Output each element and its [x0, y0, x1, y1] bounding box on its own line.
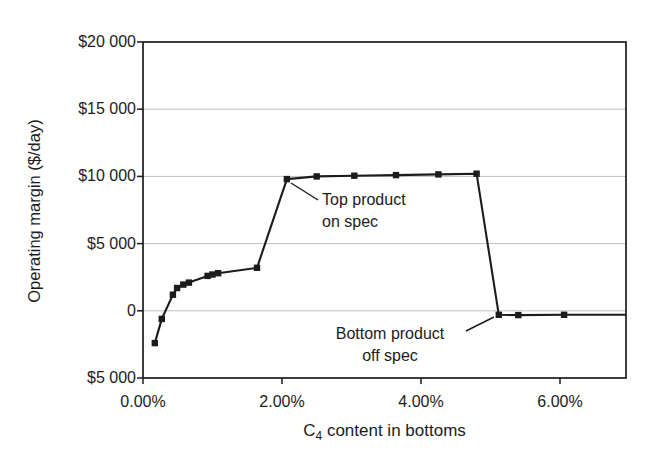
data-point-marker	[351, 173, 357, 179]
data-point-marker	[515, 312, 521, 318]
chart-figure: Operating margin ($/day) C4 content in b…	[0, 0, 654, 475]
top-product-on-spec-annotation: Top producton spec	[322, 189, 406, 232]
y-tick-label: 0	[44, 301, 136, 321]
data-point-marker	[496, 312, 502, 318]
y-axis-title: Operating margin ($/day)	[24, 86, 44, 336]
x-axis-title-pre: C	[303, 421, 315, 440]
data-point-marker	[314, 173, 320, 179]
top-product-on-spec-text-line: Top product	[322, 189, 406, 211]
data-point-marker	[186, 279, 192, 285]
data-point-marker	[254, 265, 260, 271]
top-product-on-spec-text-line: on spec	[322, 211, 406, 233]
x-axis-title: C4 content in bottoms	[143, 420, 626, 447]
data-point-marker	[561, 312, 567, 318]
data-point-marker	[159, 316, 165, 322]
data-point-marker	[393, 172, 399, 178]
y-tick-label: $15 000	[44, 99, 136, 119]
data-point-marker	[209, 271, 215, 277]
x-tick-label: 4.00%	[376, 392, 466, 412]
data-point-marker	[435, 171, 441, 177]
data-point-marker	[473, 171, 479, 177]
data-point-marker	[152, 340, 158, 346]
bottom-product-off-spec-text-line: Bottom product	[280, 323, 500, 345]
y-tick-label: $10 000	[44, 166, 136, 186]
top-product-on-spec-leader-line	[291, 183, 318, 200]
x-tick-label: 6.00%	[515, 392, 605, 412]
data-point-marker	[174, 285, 180, 291]
y-tick-label: $5 000	[44, 234, 136, 254]
data-point-marker	[180, 281, 186, 287]
x-tick-label: 2.00%	[237, 392, 327, 412]
y-tick-label: $20 000	[44, 32, 136, 52]
data-point-marker	[215, 270, 221, 276]
y-tick-label: $5 000	[44, 368, 136, 388]
bottom-product-off-spec-text-line: off spec	[280, 345, 500, 367]
x-tick-label: 0.00%	[98, 392, 188, 412]
x-axis-title-post: content in bottoms	[322, 421, 466, 440]
data-point-marker	[284, 176, 290, 182]
bottom-product-off-spec-annotation: Bottom productoff spec	[280, 323, 500, 366]
y-axis-title-text: Operating margin ($/day)	[25, 119, 43, 302]
data-point-marker	[170, 292, 176, 298]
